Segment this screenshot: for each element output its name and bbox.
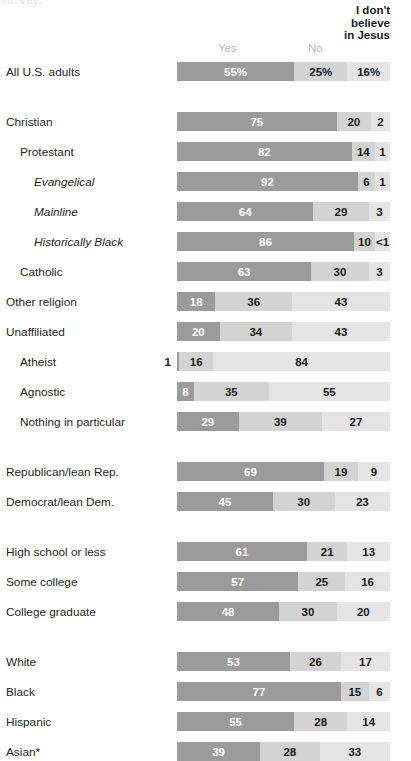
- bar-track: 532617: [177, 652, 390, 671]
- bar-track: 77156: [177, 682, 390, 701]
- row-label: Unaffiliated: [6, 325, 65, 338]
- segment-value: 17: [359, 656, 372, 668]
- row-label: All U.S. adults: [6, 65, 80, 78]
- segment-value: <1: [376, 236, 389, 248]
- row-label: Democrat/lean Dem.: [6, 495, 114, 508]
- bar-track: 11684: [177, 352, 390, 371]
- chart-row: Nothing in particular293927: [0, 412, 411, 431]
- segment-value: 30: [297, 496, 310, 508]
- segment-value: 86: [259, 236, 272, 248]
- bar-segment-no: 20: [337, 112, 371, 131]
- bar-segment-yes: 69: [177, 462, 324, 481]
- segment-value: 55: [323, 386, 336, 398]
- bar-segment-no: 19: [324, 462, 358, 481]
- segment-value: 28: [314, 716, 327, 728]
- bar-segment-idb: 3: [369, 262, 390, 281]
- bar-segment-idb: 6: [369, 682, 390, 701]
- segment-value: 29: [335, 206, 348, 218]
- bar-segment-idb: 43: [292, 322, 390, 341]
- bar-segment-no: 6: [358, 172, 375, 191]
- bar-segment-no: 25%: [294, 62, 347, 81]
- segment-value: 28: [283, 746, 296, 758]
- bar-segment-yes: 63: [177, 262, 311, 281]
- bar-segment-no: 29: [313, 202, 368, 221]
- chart-row: Democrat/lean Dem.453023: [0, 492, 411, 511]
- bar-segment-idb: 55: [269, 382, 390, 401]
- segment-value: 16%: [357, 66, 380, 78]
- bar-track: 392833: [177, 742, 390, 761]
- segment-value: 20: [347, 116, 360, 128]
- segment-value: 92: [261, 176, 274, 188]
- bar-segment-no: 30: [311, 262, 369, 281]
- chart-row: All U.S. adults55%25%16%: [0, 62, 411, 81]
- chart-row: Mainline64293: [0, 202, 411, 221]
- bar-segment-yes: 8: [177, 382, 194, 401]
- column-header-no: No: [308, 42, 323, 55]
- bar-segment-idb: 1: [375, 172, 390, 191]
- bar-track: 453023: [177, 492, 390, 511]
- bar-track: 82141: [177, 142, 390, 161]
- bar-segment-yes: 82: [177, 142, 352, 161]
- segment-value: 55: [229, 716, 242, 728]
- bar-segment-idb: 13: [347, 542, 390, 561]
- segment-value: 53: [227, 656, 240, 668]
- row-label: Hispanic: [6, 715, 51, 728]
- bar-track: 572516: [177, 572, 390, 591]
- row-label: Asian*: [6, 745, 40, 758]
- bar-track: 293927: [177, 412, 390, 431]
- segment-value: 20: [357, 606, 370, 618]
- bar-segment-yes: 75: [177, 112, 337, 131]
- bar-segment-no: 30: [273, 492, 335, 511]
- segment-value: 2: [377, 116, 383, 128]
- column-header-yes: Yes: [218, 42, 237, 55]
- chart-row: Historically Black8610<1: [0, 232, 411, 251]
- bar-segment-no: 39: [239, 412, 322, 431]
- segment-value: 25: [315, 576, 328, 588]
- segment-value: 6: [363, 176, 369, 188]
- chart-row: Other religion183643: [0, 292, 411, 311]
- bar-segment-idb: 14: [347, 712, 390, 731]
- row-label: Other religion: [6, 295, 77, 308]
- bar-segment-yes: 55: [177, 712, 294, 731]
- chart-row: Republican/lean Rep.69199: [0, 462, 411, 481]
- segment-value: 30: [302, 606, 315, 618]
- segment-value: 23: [356, 496, 369, 508]
- column-header-line-1: I don't: [330, 4, 390, 17]
- segment-value: 19: [335, 466, 348, 478]
- column-header-line-3: in Jesus: [330, 29, 390, 42]
- bar-segment-no: 16: [179, 352, 213, 371]
- bar-segment-yes: 48: [177, 602, 279, 621]
- bar-segment-no: 26: [290, 652, 341, 671]
- chart-row: Hispanic552814: [0, 712, 411, 731]
- bar-segment-yes: 39: [177, 742, 260, 761]
- segment-value: 20: [192, 326, 205, 338]
- bar-track: 63303: [177, 262, 390, 281]
- segment-value: 13: [362, 546, 375, 558]
- chart-row: Christian75202: [0, 112, 411, 131]
- bar-segment-yes: 45: [177, 492, 273, 511]
- bar-track: 75202: [177, 112, 390, 131]
- segment-value: 39: [212, 746, 225, 758]
- segment-value: 3: [376, 266, 382, 278]
- bar-segment-yes: 61: [177, 542, 307, 561]
- chart-row: Agnostic83555: [0, 382, 411, 401]
- bar-segment-idb: <1: [375, 232, 390, 251]
- bar-segment-no: 36: [215, 292, 292, 311]
- bar-segment-yes: 20: [177, 322, 220, 341]
- bar-track: 183643: [177, 292, 390, 311]
- segment-value: 18: [190, 296, 203, 308]
- bar-segment-no: 15: [341, 682, 369, 701]
- segment-value: 26: [309, 656, 322, 668]
- column-header-i-dont-believe-in-jesus: I don't believe in Jesus: [330, 4, 390, 42]
- segment-value: 30: [334, 266, 347, 278]
- chart-row: Catholic63303: [0, 262, 411, 281]
- row-label: College graduate: [6, 605, 96, 618]
- chart-row: Atheist11684: [0, 352, 411, 371]
- bar-segment-no: 10: [354, 232, 375, 251]
- chart-row: Asian*392833: [0, 742, 411, 761]
- bar-segment-no: 30: [279, 602, 337, 621]
- row-label: Agnostic: [20, 385, 65, 398]
- chart-row: Unaffiliated203443: [0, 322, 411, 341]
- bar-segment-yes: 64: [177, 202, 313, 221]
